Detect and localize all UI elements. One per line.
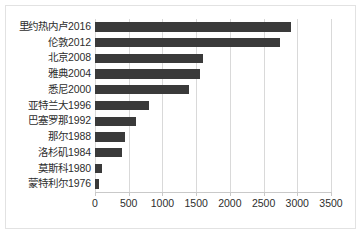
bar[interactable] xyxy=(95,164,102,173)
x-tick-label: 1500 xyxy=(184,197,207,209)
plot-area xyxy=(95,19,331,192)
bar[interactable] xyxy=(95,101,149,110)
chart-plot-wrapper: 里约热内卢2016伦敦2012北京2008雅典2004悉尼2000亚特兰大199… xyxy=(6,6,355,228)
bar-row[interactable] xyxy=(95,19,331,35)
x-tick-label: 2500 xyxy=(252,197,275,209)
x-axis-ticks xyxy=(95,192,331,196)
bar-row[interactable] xyxy=(95,82,331,98)
bar[interactable] xyxy=(95,54,203,63)
category-label: 里约热内卢2016 xyxy=(19,19,91,35)
x-tick-mark xyxy=(162,192,163,196)
bar-row[interactable] xyxy=(95,129,331,145)
x-tick-mark xyxy=(230,192,231,196)
bar[interactable] xyxy=(95,148,122,157)
bar-row[interactable] xyxy=(95,35,331,51)
bar-row[interactable] xyxy=(95,98,331,114)
x-tick-label: 500 xyxy=(120,197,138,209)
x-tick-mark xyxy=(264,192,265,196)
bar-row[interactable] xyxy=(95,145,331,161)
category-label: 那尔1988 xyxy=(48,129,91,145)
x-tick-mark xyxy=(297,192,298,196)
bar[interactable] xyxy=(95,38,280,47)
bar[interactable] xyxy=(95,117,136,126)
category-label: 莫斯科1980 xyxy=(38,161,91,177)
x-tick-label: 2000 xyxy=(218,197,241,209)
category-label: 亚特兰大1996 xyxy=(28,98,91,114)
category-label: 北京2008 xyxy=(48,50,91,66)
x-tick-label: 3000 xyxy=(286,197,309,209)
bar-row[interactable] xyxy=(95,176,331,192)
x-tick-mark xyxy=(95,192,96,196)
bar-row[interactable] xyxy=(95,50,331,66)
bar-row[interactable] xyxy=(95,66,331,82)
bar-row[interactable] xyxy=(95,161,331,177)
chart-container: 里约热内卢2016伦敦2012北京2008雅典2004悉尼2000亚特兰大199… xyxy=(5,5,356,229)
bar-row[interactable] xyxy=(95,113,331,129)
category-axis: 里约热内卢2016伦敦2012北京2008雅典2004悉尼2000亚特兰大199… xyxy=(6,19,94,192)
x-tick-mark xyxy=(129,192,130,196)
x-tick-label: 3500 xyxy=(319,197,342,209)
x-tick-mark xyxy=(331,192,332,196)
x-tick-label: 0 xyxy=(92,197,98,209)
category-label: 悉尼2000 xyxy=(48,82,91,98)
x-axis-tick-labels: 0500100015002000250030003500 xyxy=(95,197,331,213)
bar[interactable] xyxy=(95,179,99,188)
gridline-3500 xyxy=(331,19,332,192)
x-tick-label: 1000 xyxy=(151,197,174,209)
bar[interactable] xyxy=(95,85,189,94)
category-label: 巴塞罗那1992 xyxy=(28,113,91,129)
category-label: 洛杉矶1984 xyxy=(38,145,91,161)
bar[interactable] xyxy=(95,69,200,78)
bar[interactable] xyxy=(95,22,291,31)
category-label: 伦敦2012 xyxy=(48,35,91,51)
x-tick-mark xyxy=(196,192,197,196)
category-label: 蒙特利尔1976 xyxy=(28,176,91,192)
category-label: 雅典2004 xyxy=(48,66,91,82)
bar[interactable] xyxy=(95,132,125,141)
